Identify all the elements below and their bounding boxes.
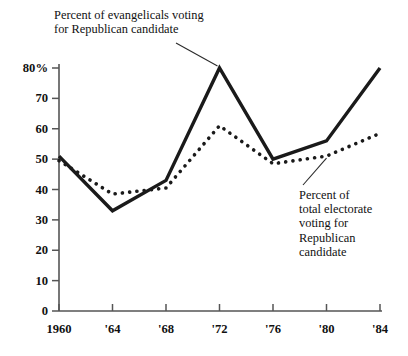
annotation-evangelicals: Percent of evangelicals voting for Repub… bbox=[54, 8, 204, 36]
y-tick-label: 30 bbox=[6, 212, 48, 227]
x-tick-label: '76 bbox=[265, 322, 281, 337]
y-tick-label: 50 bbox=[6, 152, 48, 167]
y-tick-label: 60 bbox=[6, 121, 48, 136]
x-tick-label: 1960 bbox=[46, 322, 71, 337]
x-tick-label: '84 bbox=[372, 322, 388, 337]
y-axis-label-group: 80%706050403020100 bbox=[0, 0, 48, 356]
chart-figure: 80%706050403020100 1960'64'68'72'76'80'8… bbox=[0, 0, 408, 356]
y-tick-label: 20 bbox=[6, 243, 48, 258]
x-tick-label: '68 bbox=[158, 322, 174, 337]
annotation-total-electorate: Percent of total electorate voting for R… bbox=[299, 188, 372, 259]
annotation-leader-evangelicals bbox=[176, 43, 218, 66]
annotation-leader-electorate bbox=[303, 158, 327, 185]
y-tick-label: 70 bbox=[6, 91, 48, 106]
y-tick-label: 10 bbox=[6, 273, 48, 288]
y-axis-ticks bbox=[52, 68, 59, 311]
x-tick-label: '64 bbox=[104, 322, 120, 337]
y-tick-label: 80% bbox=[6, 61, 48, 76]
line-chart-plot bbox=[0, 0, 408, 356]
x-axis-label-group: 1960'64'68'72'76'80'84 bbox=[0, 322, 408, 346]
y-tick-label: 0 bbox=[6, 304, 48, 319]
y-tick-label: 40 bbox=[6, 182, 48, 197]
x-axis-ticks bbox=[59, 304, 380, 311]
x-tick-label: '80 bbox=[318, 322, 334, 337]
x-tick-label: '72 bbox=[211, 322, 227, 337]
